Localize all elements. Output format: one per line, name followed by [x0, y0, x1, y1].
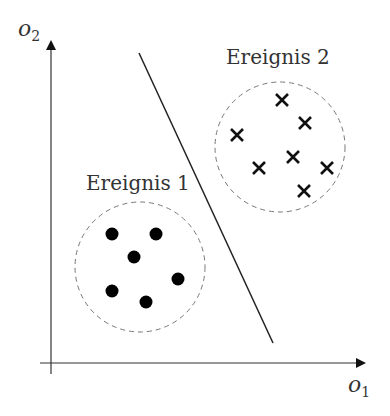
dot-marker [172, 273, 185, 286]
event-1-circle [75, 202, 205, 332]
cross-marker [299, 117, 311, 129]
x-axis-label: o1 [348, 372, 370, 400]
dot-marker [128, 251, 141, 264]
cross-marker [298, 185, 310, 197]
cross-marker [321, 162, 333, 174]
cross-marker [253, 162, 265, 174]
event-1-points [106, 228, 185, 309]
event-1-group: Ereignis 1 [75, 171, 205, 332]
dot-marker [106, 228, 119, 241]
cross-marker [276, 94, 288, 106]
event-1-label: Ereignis 1 [86, 171, 190, 195]
event-2-label: Ereignis 2 [226, 45, 330, 69]
dot-marker [150, 228, 163, 241]
event-2-points [231, 94, 333, 197]
cross-marker [231, 129, 243, 141]
separator-line [139, 53, 273, 343]
cross-marker [287, 151, 299, 163]
dot-marker [106, 285, 119, 298]
dot-marker [140, 296, 153, 309]
event-2-group: Ereignis 2 [215, 45, 345, 212]
y-axis-label: o2 [18, 16, 40, 44]
diagram-canvas: o1 o2 Ereignis 1 Ereignis 2 [0, 0, 390, 416]
